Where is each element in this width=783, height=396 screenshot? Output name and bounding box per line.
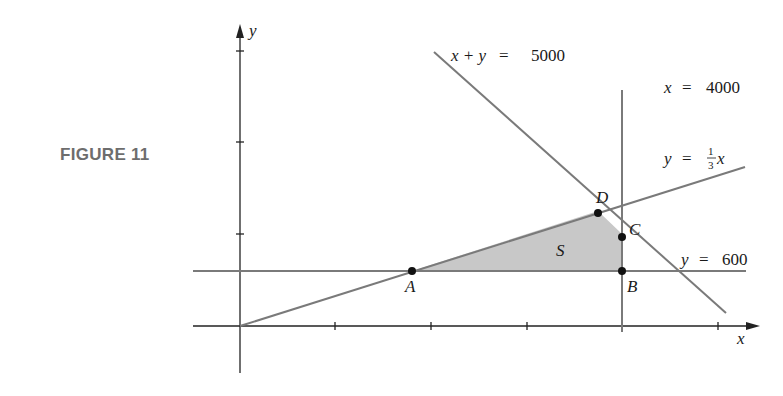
region-s-label: S (556, 241, 565, 260)
svg-text:600: 600 (722, 250, 748, 269)
point-a (408, 267, 416, 275)
x-axis-label: x (736, 329, 745, 348)
equation-y-third-x: y = 1 3 x (662, 145, 725, 171)
svg-text:4000: 4000 (706, 78, 740, 97)
svg-text:x: x (716, 149, 725, 168)
svg-text:y: y (679, 250, 689, 269)
svg-text:5000: 5000 (531, 46, 565, 65)
point-d (594, 209, 602, 217)
svg-text:x + y: x + y (450, 46, 487, 65)
svg-text:=: = (699, 250, 709, 269)
point-b-label: B (627, 277, 638, 296)
svg-text:1: 1 (708, 145, 714, 157)
point-c (618, 233, 626, 241)
y-axis-label: y (247, 21, 257, 40)
equation-x-plus-y-5000: x + y = 5000 (450, 46, 565, 65)
linear-programming-diagram: y x A B C D S x + y = 5000 x = 4000 y = … (0, 0, 783, 396)
line-y-third-x (240, 167, 745, 326)
x-axis-arrow-icon (746, 322, 760, 330)
equation-x-4000: x = 4000 (663, 78, 740, 97)
svg-text:x: x (663, 78, 672, 97)
svg-text:=: = (682, 78, 692, 97)
point-b (618, 267, 626, 275)
svg-text:3: 3 (708, 159, 714, 171)
point-c-label: C (629, 220, 641, 239)
point-a-label: A (404, 277, 416, 296)
svg-text:y: y (662, 149, 672, 168)
y-axis-arrow-icon (236, 24, 244, 38)
equation-y-600: y = 600 (679, 250, 748, 269)
svg-text:=: = (499, 46, 509, 65)
svg-text:=: = (682, 149, 692, 168)
y-axis (236, 35, 244, 373)
point-d-label: D (595, 188, 609, 207)
x-axis (193, 322, 752, 330)
